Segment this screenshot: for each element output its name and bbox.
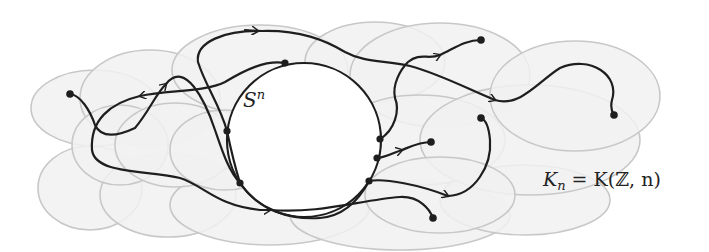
endpoint [66, 90, 74, 98]
endpoint [429, 214, 437, 222]
circle-point [376, 135, 383, 142]
circle-point [281, 59, 288, 66]
circle-point [365, 177, 372, 184]
endpoint [610, 111, 618, 119]
circle-point [236, 179, 243, 186]
cover-ellipse [490, 41, 660, 151]
diagram-sphere-in-eilenberg-maclane-space: Sn Kn = K(ℤ, n) [0, 0, 709, 252]
path-top-arrow-hint [245, 30, 258, 31]
cover-ellipse [365, 157, 515, 233]
circle-point [223, 127, 230, 134]
endpoint [477, 114, 485, 122]
endpoint [477, 36, 485, 44]
endpoint [427, 138, 435, 146]
circle-point [373, 154, 380, 161]
